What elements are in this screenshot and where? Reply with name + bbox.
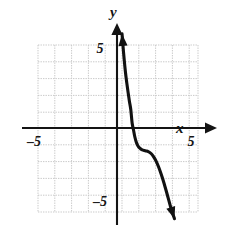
x-axis — [22, 122, 217, 133]
graph-figure: x y 5 –5 –5 5 — [0, 0, 242, 231]
y-tick-label-positive-5: 5 — [97, 41, 104, 56]
y-tick-label-negative-5: –5 — [92, 194, 107, 209]
x-tick-label-negative-5: –5 — [26, 134, 41, 149]
x-tick-label-positive-5: 5 — [188, 134, 195, 149]
y-axis-label: y — [108, 4, 117, 20]
x-axis-label: x — [175, 120, 184, 136]
